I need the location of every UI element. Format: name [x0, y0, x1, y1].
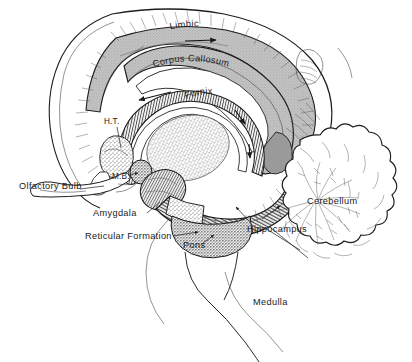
- label-pons: Pons: [183, 240, 205, 250]
- label-medulla: Medulla: [253, 297, 288, 307]
- label-mb: M.B.: [112, 172, 130, 181]
- label-reticular-formation: Reticular Formation: [85, 231, 172, 241]
- medulla-inner-contour: [225, 272, 283, 352]
- label-ht: H.T.: [104, 117, 119, 126]
- diagram-canvas: Limbic Corpus Callosum Fornix H.T. M.B. …: [0, 0, 412, 362]
- label-amygdala: Amygdala: [93, 208, 137, 218]
- medulla-left-edge: [185, 252, 259, 362]
- occipital-fold-line: [338, 48, 352, 78]
- limbic-system-diagram: Limbic Corpus Callosum Fornix H.T. M.B. …: [0, 0, 412, 362]
- label-cerebellum: Cerebellum: [307, 196, 357, 206]
- label-hippocampus: Hippocampus: [247, 224, 307, 234]
- label-olfactory-bulb: Olfactory Bulb: [19, 181, 82, 191]
